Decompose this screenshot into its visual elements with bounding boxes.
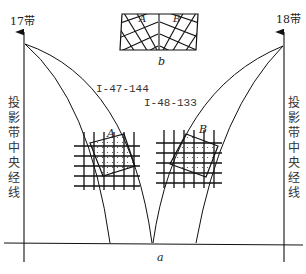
baseline [4,243,303,245]
subfigure-a-label: a [157,252,164,263]
left-zone-label: 17带 [10,16,35,27]
sheet-label-a: I-47-144 [96,84,149,95]
left-zone-outer-curve [25,44,152,243]
left-meridian-label: 投影带中央经线 [7,96,21,201]
patch-a-label: A [107,128,115,139]
right-meridian-label: 投影带中央经线 [287,96,301,201]
right-zone-outer-curve [153,46,283,243]
sheet-label-b: I-48-133 [144,98,197,109]
subfigure-b-label: b [158,56,165,67]
right-zone-label: 18带 [276,14,301,25]
projection-diagram [0,0,306,274]
patch-a [90,134,135,176]
inset-patch-a-label: A [139,14,146,24]
patch-b [170,134,218,177]
inset-patch-b-label: B [173,14,180,24]
patch-b-label: B [199,124,207,135]
